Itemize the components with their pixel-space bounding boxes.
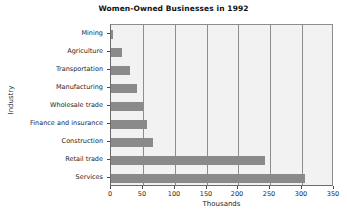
bar bbox=[111, 66, 130, 75]
y-axis-label: Transportation bbox=[56, 65, 103, 73]
x-axis-tick bbox=[174, 186, 175, 189]
bar bbox=[111, 156, 265, 165]
bar-series bbox=[111, 25, 332, 185]
y-axis-tick bbox=[107, 51, 110, 52]
x-axis-tick bbox=[301, 186, 302, 189]
x-axis-tick bbox=[142, 186, 143, 189]
x-axis-tick-label: 150 bbox=[200, 190, 212, 198]
y-axis-title: Industry bbox=[7, 70, 15, 130]
x-axis-tick-label: 200 bbox=[231, 190, 243, 198]
bar bbox=[111, 120, 147, 129]
y-axis-tick bbox=[107, 87, 110, 88]
x-axis-tick bbox=[206, 186, 207, 189]
bar bbox=[111, 84, 137, 93]
y-axis-tick bbox=[107, 105, 110, 106]
bar-chart: Women-Owned Businesses in 1992 MiningAgr… bbox=[0, 0, 347, 224]
x-axis-tick-label: 250 bbox=[263, 190, 275, 198]
x-axis-tick bbox=[110, 186, 111, 189]
bar bbox=[111, 138, 153, 147]
x-axis-tick-label: 350 bbox=[327, 190, 339, 198]
y-axis-label: Agriculture bbox=[67, 47, 103, 55]
y-axis-label: Mining bbox=[81, 29, 103, 37]
x-axis-title: Thousands bbox=[110, 200, 333, 208]
bar bbox=[111, 48, 122, 57]
x-axis-tick-label: 100 bbox=[168, 190, 180, 198]
y-axis-tick bbox=[107, 177, 110, 178]
x-axis-tick bbox=[269, 186, 270, 189]
y-axis-tick bbox=[107, 159, 110, 160]
bar bbox=[111, 102, 143, 111]
x-axis-tick bbox=[237, 186, 238, 189]
y-axis-tick bbox=[107, 69, 110, 70]
y-axis-tick bbox=[107, 141, 110, 142]
x-axis-tick-label: 0 bbox=[108, 190, 112, 198]
x-axis-tick bbox=[333, 186, 334, 189]
y-axis-label: Services bbox=[76, 173, 103, 181]
x-axis-tick-label: 300 bbox=[295, 190, 307, 198]
y-axis-label: Manufacturing bbox=[56, 83, 103, 91]
y-axis-label: Finance and insurance bbox=[30, 119, 103, 127]
y-axis-label: Retail trade bbox=[65, 155, 103, 163]
bar bbox=[111, 174, 305, 183]
bar bbox=[111, 30, 113, 39]
y-axis-tick bbox=[107, 33, 110, 34]
y-axis-category-labels: MiningAgricultureTransportationManufactu… bbox=[0, 24, 107, 186]
y-axis-tick bbox=[107, 123, 110, 124]
x-axis-tick-label: 50 bbox=[138, 190, 146, 198]
chart-title: Women-Owned Businesses in 1992 bbox=[0, 4, 347, 13]
y-axis-label: Construction bbox=[62, 137, 103, 145]
plot-area bbox=[110, 24, 333, 186]
y-axis-label: Wholesale trade bbox=[50, 101, 103, 109]
